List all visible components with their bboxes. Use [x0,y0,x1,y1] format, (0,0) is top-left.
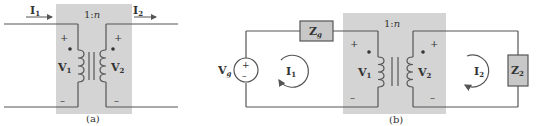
figure-b: Zg + – Vg I1 Z2 I2 1:n + + [217,13,528,125]
primary-minus-label: – [350,92,355,103]
primary-plus-label: + [60,32,68,43]
mesh-current-2-label: I2 [474,65,484,79]
figure-a: I1 I2 1:n + + – – V1 V2 (a) [4,4,178,124]
mesh-current-1-label: I1 [286,65,296,79]
current-out-label: I2 [133,4,143,18]
secondary-plus-label: + [114,32,122,43]
source-minus-label: – [242,71,247,81]
secondary-minus-label: – [114,95,119,106]
polarity-dot-icon [68,47,72,51]
polarity-dot-icon [421,50,425,54]
caption-b: (b) [389,114,403,125]
polarity-dot-icon [111,47,115,51]
current-in-label: I1 [30,4,40,18]
primary-minus-label: – [60,95,65,106]
source-voltage-label: Vg [217,64,232,78]
primary-plus-label: + [350,38,358,49]
source-plus-label: + [242,60,250,70]
secondary-plus-label: + [430,38,438,49]
polarity-dot-icon [367,50,371,54]
transformer-figure: I1 I2 1:n + + – – V1 V2 (a) Zg + – Vg I1 [0,0,537,126]
turns-ratio-label: 1:n [384,18,400,29]
turns-ratio-label: 1:n [84,9,100,20]
secondary-minus-label: – [430,92,435,103]
caption-a: (a) [86,113,100,124]
